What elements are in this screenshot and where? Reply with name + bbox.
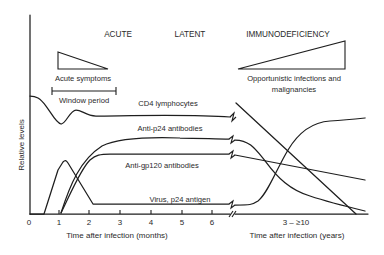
- phase-acute-label: ACUTE: [104, 30, 132, 39]
- anti-gp120-break: [229, 151, 235, 158]
- virus-p24-break: [229, 201, 235, 208]
- x-axis-months-title: Time after infection (months): [66, 231, 168, 240]
- x-axis-years-title: Time after infection (years): [250, 231, 345, 240]
- phase-immunodeficiency-label: IMMUNODEFICIENCY: [246, 30, 330, 39]
- opportunistic-infections-label-line2: malignancies: [272, 85, 317, 94]
- window-period-label: Window period: [59, 96, 109, 105]
- x-tick-5: 5: [180, 218, 185, 227]
- virus-p24-label: Virus, p24 antigen: [149, 195, 210, 204]
- opportunistic-infections-wedge-icon: [238, 41, 345, 69]
- y-axis-label: Relative levels: [17, 119, 26, 171]
- x-tick-6: 6: [210, 218, 215, 227]
- x-tick-2: 2: [87, 218, 92, 227]
- hiv-timeline-diagram: ACUTE LATENT IMMUNODEFICIENCY Acute symp…: [0, 0, 384, 255]
- anti-p24-label: Anti-p24 antibodies: [137, 124, 202, 133]
- x-tick-1: 1: [57, 218, 62, 227]
- anti-gp120-label: Anti-gp120 antibodies: [125, 161, 199, 170]
- anti-p24-break: [229, 136, 235, 143]
- x-tick-3: 3: [118, 218, 123, 227]
- cd4-label: CD4 lymphocytes: [138, 99, 198, 108]
- x-years-range-label: 3 – ≥10: [283, 218, 310, 227]
- anti-p24-curve-late: [235, 140, 365, 211]
- opportunistic-infections-label-line1: Opportunistic infections and: [247, 74, 341, 83]
- anti-gp120-curve-late: [235, 155, 365, 180]
- phase-latent-label: LATENT: [175, 30, 206, 39]
- x-tick-0: 0: [27, 218, 32, 227]
- cd4-break: [230, 113, 236, 121]
- acute-symptoms-wedge-icon: [58, 52, 108, 69]
- window-period-bracket: [52, 87, 116, 95]
- x-tick-4: 4: [149, 218, 154, 227]
- acute-symptoms-label: Acute symptoms: [55, 74, 111, 83]
